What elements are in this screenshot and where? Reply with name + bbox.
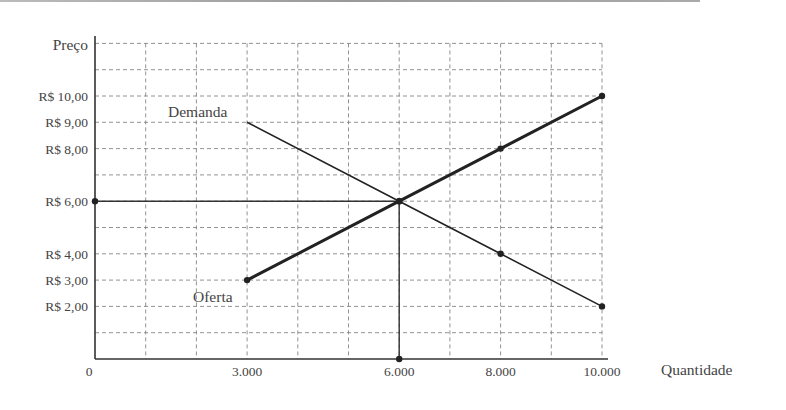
supply-label: Oferta [193, 288, 233, 305]
demand-curve-point [599, 303, 605, 309]
x-tick-label: 3.000 [232, 364, 263, 379]
demand-label: Demanda [168, 103, 228, 120]
demand-curve [247, 122, 602, 306]
demand-curve-point [497, 251, 503, 257]
y-tick-label: R$ 9,00 [45, 115, 88, 130]
y-tick-label: R$ 2,00 [45, 299, 88, 314]
supply-curve [247, 96, 602, 280]
x-tick-label: 10.000 [583, 364, 620, 379]
price-marker [92, 198, 98, 204]
y-tick-label: R$ 4,00 [45, 247, 88, 262]
y-tick-label: R$ 6,00 [45, 194, 88, 209]
supply-curve-point [396, 198, 402, 204]
y-tick-label: R$ 10,00 [38, 89, 88, 104]
x-tick-label: 6.000 [384, 364, 415, 379]
axes [95, 36, 608, 359]
supply-curve-point [497, 145, 503, 151]
x-tick-label: 0 [86, 364, 93, 379]
x-axis-label: Quantidade [661, 361, 733, 378]
y-tick-label: R$ 8,00 [45, 142, 88, 157]
supply-demand-chart: R$ 10,00R$ 9,00R$ 8,00R$ 6,00R$ 4,00R$ 3… [0, 0, 786, 410]
x-tick-label: 8.000 [485, 364, 516, 379]
supply-curve-point [599, 93, 605, 99]
supply-curve-point [244, 277, 250, 283]
y-axis-label: Preço [53, 36, 89, 53]
quantity-marker [396, 356, 402, 362]
y-tick-label: R$ 3,00 [45, 273, 88, 288]
